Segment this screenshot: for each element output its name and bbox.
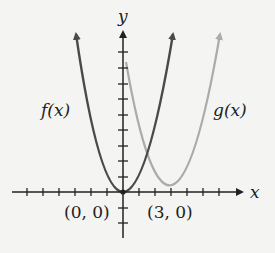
x-axis-label: x xyxy=(250,182,260,202)
y-axis-label: y xyxy=(117,6,128,26)
origin-point xyxy=(120,189,125,194)
origin-label: (0, 0) xyxy=(64,202,110,222)
f-curve-right xyxy=(123,34,173,192)
vertex-label: (3, 0) xyxy=(147,202,193,222)
graph: y x f(x) g(x) (0, 0) (3, 0) xyxy=(0,0,275,253)
f-label: f(x) xyxy=(39,100,70,120)
g-curve xyxy=(126,34,220,185)
f-curve-left xyxy=(76,34,123,192)
g-label: g(x) xyxy=(213,100,247,120)
